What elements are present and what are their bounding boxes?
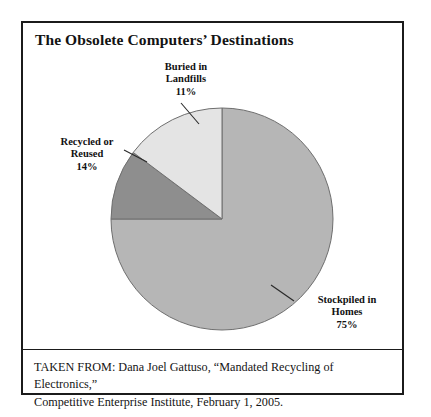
source-divider [23, 349, 402, 350]
pie-chart: Buried in Landfills 11% Recycled or Reus… [23, 23, 402, 349]
pie-label-stockpiled-line1: Stockpiled in [295, 294, 399, 306]
pie-label-stockpiled-value: 75% [295, 319, 399, 331]
source-citation-line2: Competitive Enterprise Institute, Februa… [34, 394, 390, 411]
pie-label-landfills-line2: Landfills [138, 73, 234, 85]
pie-label-stockpiled-in-homes: Stockpiled in Homes 75% [295, 294, 399, 331]
pie-label-stockpiled-line2: Homes [295, 306, 399, 318]
pie-label-recycled-line2: Reused [34, 148, 140, 160]
pie-label-recycled-line1: Recycled or [34, 136, 140, 148]
pie-label-recycled-or-reused: Recycled or Reused 14% [34, 136, 140, 173]
pie-label-recycled-value: 14% [34, 161, 140, 173]
source-citation-line1: TAKEN FROM: Dana Joel Gattuso, “Mandated… [34, 359, 390, 394]
source-citation: TAKEN FROM: Dana Joel Gattuso, “Mandated… [34, 359, 390, 411]
pie-label-landfills-line1: Buried in [138, 61, 234, 73]
pie-label-buried-in-landfills: Buried in Landfills 11% [138, 61, 234, 98]
pie-label-landfills-value: 11% [138, 86, 234, 98]
chart-figure-frame: The Obsolete Computers’ Destinations Bur… [21, 21, 404, 395]
